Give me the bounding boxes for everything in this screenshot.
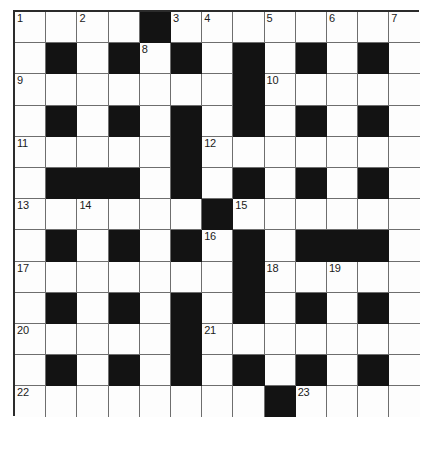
letter-cell[interactable] bbox=[140, 137, 171, 168]
letter-cell[interactable]: 11 bbox=[15, 137, 46, 168]
letter-cell[interactable] bbox=[389, 293, 420, 324]
letter-cell[interactable] bbox=[171, 199, 202, 230]
letter-cell[interactable] bbox=[265, 43, 296, 74]
letter-cell[interactable] bbox=[15, 43, 46, 74]
letter-cell[interactable] bbox=[109, 199, 140, 230]
letter-cell[interactable] bbox=[389, 324, 420, 355]
letter-cell[interactable] bbox=[358, 74, 389, 105]
letter-cell[interactable] bbox=[77, 106, 108, 137]
letter-cell[interactable] bbox=[327, 355, 358, 386]
letter-cell[interactable] bbox=[77, 43, 108, 74]
letter-cell[interactable] bbox=[296, 199, 327, 230]
letter-cell[interactable] bbox=[389, 386, 420, 417]
letter-cell[interactable]: 10 bbox=[265, 74, 296, 105]
letter-cell[interactable] bbox=[46, 74, 77, 105]
letter-cell[interactable] bbox=[296, 12, 327, 43]
letter-cell[interactable] bbox=[171, 74, 202, 105]
letter-cell[interactable] bbox=[327, 137, 358, 168]
letter-cell[interactable] bbox=[15, 168, 46, 199]
letter-cell[interactable] bbox=[140, 199, 171, 230]
letter-cell[interactable] bbox=[202, 168, 233, 199]
letter-cell[interactable] bbox=[389, 43, 420, 74]
letter-cell[interactable] bbox=[202, 262, 233, 293]
letter-cell[interactable] bbox=[140, 262, 171, 293]
letter-cell[interactable] bbox=[202, 106, 233, 137]
letter-cell[interactable] bbox=[140, 106, 171, 137]
letter-cell[interactable]: 3 bbox=[171, 12, 202, 43]
letter-cell[interactable]: 7 bbox=[389, 12, 420, 43]
letter-cell[interactable] bbox=[265, 355, 296, 386]
letter-cell[interactable] bbox=[202, 355, 233, 386]
crossword-grid[interactable]: 1234567891011121314151617181920212223 bbox=[13, 10, 419, 416]
letter-cell[interactable] bbox=[140, 293, 171, 324]
letter-cell[interactable]: 22 bbox=[15, 386, 46, 417]
letter-cell[interactable] bbox=[46, 12, 77, 43]
letter-cell[interactable]: 17 bbox=[15, 262, 46, 293]
letter-cell[interactable]: 14 bbox=[77, 199, 108, 230]
letter-cell[interactable] bbox=[46, 386, 77, 417]
letter-cell[interactable] bbox=[358, 324, 389, 355]
letter-cell[interactable] bbox=[15, 355, 46, 386]
letter-cell[interactable] bbox=[233, 324, 264, 355]
letter-cell[interactable] bbox=[327, 43, 358, 74]
letter-cell[interactable] bbox=[389, 168, 420, 199]
letter-cell[interactable]: 8 bbox=[140, 43, 171, 74]
letter-cell[interactable] bbox=[140, 230, 171, 261]
letter-cell[interactable] bbox=[202, 386, 233, 417]
letter-cell[interactable] bbox=[327, 324, 358, 355]
letter-cell[interactable] bbox=[15, 293, 46, 324]
letter-cell[interactable] bbox=[46, 199, 77, 230]
letter-cell[interactable] bbox=[202, 74, 233, 105]
letter-cell[interactable]: 13 bbox=[15, 199, 46, 230]
letter-cell[interactable] bbox=[327, 386, 358, 417]
letter-cell[interactable] bbox=[327, 293, 358, 324]
letter-cell[interactable] bbox=[296, 262, 327, 293]
letter-cell[interactable] bbox=[77, 386, 108, 417]
letter-cell[interactable]: 19 bbox=[327, 262, 358, 293]
letter-cell[interactable] bbox=[77, 262, 108, 293]
letter-cell[interactable]: 12 bbox=[202, 137, 233, 168]
letter-cell[interactable] bbox=[140, 74, 171, 105]
letter-cell[interactable] bbox=[15, 106, 46, 137]
letter-cell[interactable] bbox=[358, 199, 389, 230]
letter-cell[interactable]: 5 bbox=[265, 12, 296, 43]
letter-cell[interactable] bbox=[358, 262, 389, 293]
letter-cell[interactable] bbox=[296, 324, 327, 355]
letter-cell[interactable] bbox=[140, 324, 171, 355]
letter-cell[interactable]: 21 bbox=[202, 324, 233, 355]
letter-cell[interactable] bbox=[77, 324, 108, 355]
letter-cell[interactable] bbox=[202, 293, 233, 324]
letter-cell[interactable]: 15 bbox=[233, 199, 264, 230]
letter-cell[interactable] bbox=[389, 199, 420, 230]
letter-cell[interactable] bbox=[327, 168, 358, 199]
letter-cell[interactable]: 16 bbox=[202, 230, 233, 261]
letter-cell[interactable] bbox=[296, 137, 327, 168]
letter-cell[interactable] bbox=[265, 137, 296, 168]
letter-cell[interactable] bbox=[265, 199, 296, 230]
letter-cell[interactable] bbox=[265, 168, 296, 199]
letter-cell[interactable] bbox=[389, 262, 420, 293]
letter-cell[interactable]: 20 bbox=[15, 324, 46, 355]
letter-cell[interactable] bbox=[77, 137, 108, 168]
letter-cell[interactable] bbox=[140, 386, 171, 417]
letter-cell[interactable] bbox=[15, 230, 46, 261]
letter-cell[interactable] bbox=[389, 355, 420, 386]
letter-cell[interactable] bbox=[77, 355, 108, 386]
letter-cell[interactable] bbox=[109, 12, 140, 43]
letter-cell[interactable] bbox=[171, 386, 202, 417]
letter-cell[interactable] bbox=[109, 262, 140, 293]
letter-cell[interactable] bbox=[389, 137, 420, 168]
letter-cell[interactable] bbox=[109, 137, 140, 168]
letter-cell[interactable] bbox=[233, 137, 264, 168]
letter-cell[interactable]: 4 bbox=[202, 12, 233, 43]
letter-cell[interactable] bbox=[233, 386, 264, 417]
letter-cell[interactable] bbox=[265, 106, 296, 137]
letter-cell[interactable] bbox=[358, 137, 389, 168]
letter-cell[interactable] bbox=[233, 12, 264, 43]
letter-cell[interactable]: 1 bbox=[15, 12, 46, 43]
letter-cell[interactable] bbox=[265, 324, 296, 355]
letter-cell[interactable] bbox=[46, 137, 77, 168]
letter-cell[interactable] bbox=[202, 43, 233, 74]
letter-cell[interactable] bbox=[140, 168, 171, 199]
letter-cell[interactable] bbox=[389, 106, 420, 137]
